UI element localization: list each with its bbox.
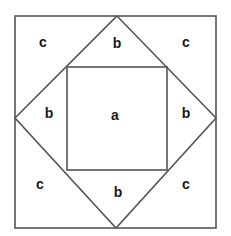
label-c-top-right: c <box>182 35 190 49</box>
label-b-top: b <box>113 36 122 50</box>
label-c-bottom-left: c <box>36 177 44 191</box>
pythagorean-square-diagram: a b b b b c c c c <box>0 0 231 236</box>
label-b-right: b <box>182 106 191 120</box>
label-c-top-left: c <box>39 35 47 49</box>
label-a-center: a <box>111 108 119 122</box>
label-c-bottom-right: c <box>182 177 190 191</box>
label-b-bottom: b <box>114 185 123 199</box>
label-b-left: b <box>45 106 54 120</box>
